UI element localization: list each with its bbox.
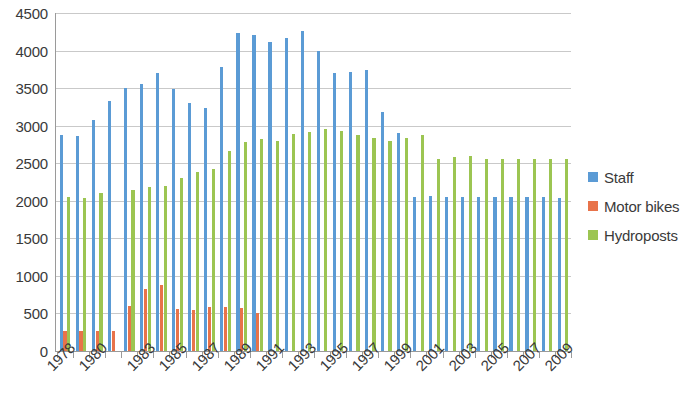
legend-swatch-icon	[588, 172, 598, 182]
legend-item[interactable]: Staff	[588, 166, 691, 188]
bar-staff	[445, 197, 448, 351]
bar-staff	[236, 33, 239, 351]
bar-staff	[413, 197, 416, 351]
bar-hydroposts	[67, 197, 70, 351]
bar-group	[542, 12, 553, 351]
y-tick-label: 3500	[0, 81, 48, 96]
bar-hydroposts	[228, 151, 231, 351]
bar-group	[558, 12, 569, 351]
bar-hydroposts	[308, 132, 311, 351]
bar-hydroposts	[517, 159, 520, 351]
y-tick-label: 0	[0, 344, 48, 359]
bar-staff	[461, 197, 464, 351]
x-axis-labels: 1978198019831985198719891991199319951997…	[0, 358, 691, 401]
bar-staff	[397, 133, 400, 351]
bar-hydroposts	[164, 186, 167, 351]
plot-area	[55, 13, 571, 352]
bar-staff	[140, 84, 143, 351]
bar-group	[188, 12, 199, 351]
bar-group	[509, 12, 520, 351]
bar-hydroposts	[244, 142, 247, 351]
bar-hydroposts	[324, 129, 327, 351]
bar-group	[92, 12, 103, 351]
bar-hydroposts	[292, 134, 295, 351]
bar-staff	[108, 101, 111, 351]
bar-hydroposts	[340, 131, 343, 351]
bar-staff	[76, 136, 79, 351]
bar-group	[429, 12, 440, 351]
legend-label: Motor bikes	[604, 198, 679, 215]
legend-swatch-icon	[588, 230, 598, 240]
bar-hydroposts	[99, 193, 102, 351]
bar-hydroposts	[485, 159, 488, 351]
legend-item[interactable]: Hydroposts	[588, 224, 691, 246]
bar-hydroposts	[276, 141, 279, 351]
bar-staff	[542, 197, 545, 351]
bar-group	[140, 12, 151, 351]
y-tick-label: 4000	[0, 43, 48, 58]
bar-staff	[188, 103, 191, 351]
bar-hydroposts	[453, 157, 456, 351]
bar-staff	[301, 31, 304, 351]
bar-group	[525, 12, 536, 351]
bar-group	[333, 12, 344, 351]
bar-hydroposts	[148, 187, 151, 351]
bar-group	[268, 12, 279, 351]
bar-staff	[558, 198, 561, 351]
bar-hydroposts	[131, 190, 134, 351]
bar-hydroposts	[549, 159, 552, 351]
bar-staff	[429, 196, 432, 351]
bar-staff	[477, 197, 480, 351]
legend-label: Hydroposts	[604, 227, 678, 244]
bar-staff	[220, 67, 223, 351]
bar-staff	[268, 42, 271, 351]
bar-hydroposts	[180, 178, 183, 351]
bar-hydroposts	[196, 172, 199, 351]
bar-staff	[204, 108, 207, 351]
bar-group	[413, 12, 424, 351]
bar-hydroposts	[260, 139, 263, 351]
bar-staff	[252, 35, 255, 351]
bar-hydroposts	[356, 135, 359, 351]
bar-motor-bikes	[192, 310, 195, 351]
bar-staff	[365, 70, 368, 351]
bar-group	[172, 12, 183, 351]
bar-staff	[493, 197, 496, 351]
y-tick-label: 1500	[0, 231, 48, 246]
bar-group	[156, 12, 167, 351]
bar-staff	[172, 89, 175, 351]
bar-hydroposts	[83, 198, 86, 351]
legend-item[interactable]: Motor bikes	[588, 195, 691, 217]
legend-label: Staff	[604, 169, 634, 186]
bar-hydroposts	[501, 159, 504, 351]
bar-motor-bikes	[112, 331, 115, 351]
y-tick-label: 4500	[0, 6, 48, 21]
bar-group	[493, 12, 504, 351]
bar-hydroposts	[565, 159, 568, 351]
bars-layer	[55, 13, 571, 352]
bar-staff	[381, 112, 384, 351]
bar-group	[397, 12, 408, 351]
bar-staff	[317, 51, 320, 351]
bar-hydroposts	[212, 169, 215, 351]
bar-motor-bikes	[128, 306, 131, 351]
bar-group	[108, 12, 119, 351]
bar-staff	[92, 120, 95, 351]
bar-hydroposts	[372, 138, 375, 351]
y-tick-label: 1000	[0, 268, 48, 283]
bar-group	[124, 12, 135, 351]
bar-group	[301, 12, 312, 351]
bar-hydroposts	[421, 135, 424, 351]
y-tick-label: 2500	[0, 156, 48, 171]
bar-group	[285, 12, 296, 351]
bar-group	[76, 12, 87, 351]
bar-hydroposts	[388, 141, 391, 351]
y-tick-label: 500	[0, 306, 48, 321]
bar-hydroposts	[405, 138, 408, 351]
bar-staff	[60, 135, 63, 351]
bar-motor-bikes	[160, 285, 163, 351]
bar-group	[236, 12, 247, 351]
bar-staff	[509, 197, 512, 351]
bar-group	[461, 12, 472, 351]
bar-group	[60, 12, 71, 351]
